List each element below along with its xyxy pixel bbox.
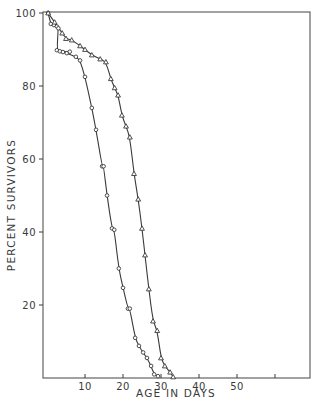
y-tick-label: 80 <box>22 81 36 92</box>
circle-marker <box>133 336 137 340</box>
circle-marker <box>57 27 61 31</box>
circle-marker <box>90 106 94 110</box>
x-tick-label: 10 <box>78 381 92 392</box>
y-tick-label: 20 <box>22 300 36 311</box>
circle-marker <box>152 373 156 377</box>
triangle-marker <box>46 11 51 15</box>
triangle-marker <box>140 226 145 230</box>
triangle-marker <box>112 85 117 89</box>
circle-marker <box>112 228 116 232</box>
circle-marker <box>61 50 65 54</box>
y-tick-label: 40 <box>22 227 36 238</box>
circle-marker <box>105 194 109 198</box>
circle-marker <box>156 374 160 378</box>
circle-marker <box>121 286 125 290</box>
circle-marker <box>137 344 141 348</box>
x-tick-label: 20 <box>116 381 130 392</box>
triangle-marker <box>146 287 151 291</box>
x-axis-title: AGE IN DAYS <box>136 387 216 399</box>
plot-frame <box>43 12 310 378</box>
data-markers <box>46 11 176 379</box>
triangle-marker <box>159 356 164 360</box>
triangle-marker <box>155 328 160 332</box>
circle-marker <box>145 356 149 360</box>
triangle-marker <box>124 124 129 128</box>
circle-marker <box>68 50 72 54</box>
circle-marker <box>128 307 132 311</box>
triangle-marker <box>98 57 103 61</box>
triangle-marker <box>162 364 167 368</box>
circle-marker <box>78 59 82 63</box>
triangle-marker <box>108 76 113 80</box>
circles-fit-curve <box>48 13 158 376</box>
triangle-marker <box>69 38 74 42</box>
triangle-marker <box>104 60 109 64</box>
y-tick-label: 100 <box>15 8 36 19</box>
circle-marker <box>74 55 78 59</box>
circle-marker <box>117 267 121 271</box>
x-tick-label: 50 <box>230 381 244 392</box>
triangle-marker <box>136 197 141 201</box>
circle-marker <box>94 128 98 132</box>
triangle-marker <box>127 135 132 139</box>
triangle-marker <box>132 171 137 175</box>
circle-marker <box>102 165 106 169</box>
y-tick-label: 60 <box>22 154 36 165</box>
circle-marker <box>83 75 87 79</box>
triangle-marker <box>151 319 156 323</box>
y-axis-title: PERCENT SURVIVORS <box>5 139 17 271</box>
triangle-marker <box>143 253 148 257</box>
triangle-marker <box>116 93 121 97</box>
circle-marker <box>149 364 153 368</box>
triangle-marker <box>119 113 124 117</box>
y-axis: 20406080100 <box>15 8 43 311</box>
circle-marker <box>141 351 145 355</box>
survival-chart: 20406080100 1020304050 AGE IN DAYS PERCE… <box>0 0 320 408</box>
